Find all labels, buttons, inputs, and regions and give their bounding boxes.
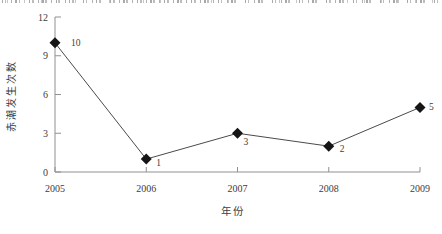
data-point-label: 5: [429, 102, 434, 112]
series-line: [55, 43, 420, 159]
y-tick-label: 9: [43, 50, 48, 61]
data-point-marker: [141, 154, 152, 165]
y-tick-label: 0: [43, 167, 48, 178]
y-tick-label: 12: [38, 12, 48, 23]
data-point-marker: [50, 37, 61, 48]
x-tick-label: 2009: [410, 183, 430, 194]
data-point-label: 10: [71, 38, 81, 48]
x-tick-label: 2008: [319, 183, 339, 194]
data-point-label: 3: [244, 137, 249, 147]
chart-plot: 03691220052006200720082009101325: [0, 0, 442, 234]
data-point-marker: [415, 102, 426, 113]
y-tick-label: 3: [43, 128, 48, 139]
y-axis-title: 赤潮发生次数: [3, 46, 18, 146]
x-tick-label: 2005: [45, 183, 65, 194]
cropped-text-remnant: [2, 0, 438, 3]
x-tick-label: 2006: [136, 183, 156, 194]
line-chart-figure: 赤潮发生次数 03691220052006200720082009101325 …: [0, 0, 442, 234]
data-point-label: 1: [156, 158, 161, 168]
data-point-marker: [323, 141, 334, 152]
data-point-label: 2: [340, 144, 345, 154]
data-point-marker: [232, 128, 243, 139]
x-axis-title: 年份: [183, 203, 283, 218]
x-tick-label: 2007: [228, 183, 248, 194]
y-tick-label: 6: [43, 89, 48, 100]
